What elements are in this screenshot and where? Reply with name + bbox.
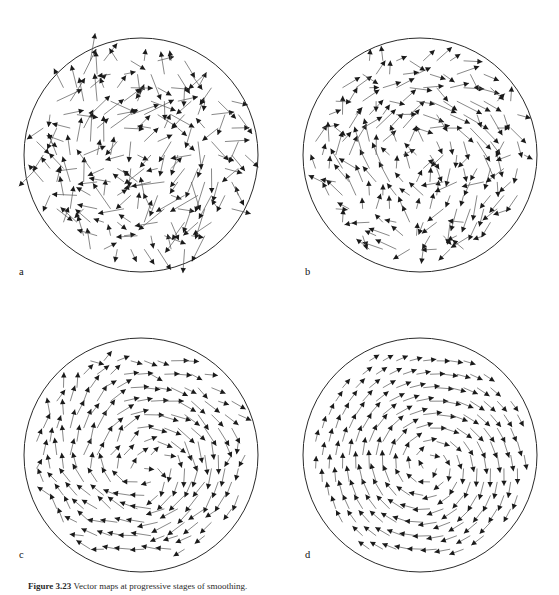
arrow-head: [313, 456, 318, 461]
arrow-head: [118, 425, 123, 431]
arrow-head: [78, 118, 83, 124]
arrow-head: [339, 158, 345, 163]
arrow-head: [37, 487, 43, 492]
arrow-head: [130, 492, 135, 497]
arrow-head: [329, 428, 334, 434]
arrow-head: [374, 90, 380, 95]
arrow-head: [315, 430, 320, 436]
arrow-head: [374, 134, 379, 139]
arrow-head: [474, 482, 479, 487]
arrow-head: [136, 192, 141, 197]
arrow-head: [163, 536, 169, 541]
arrow-group: [313, 355, 528, 556]
arrow-head: [220, 481, 225, 487]
arrow-head: [440, 371, 445, 376]
arrow-head: [406, 456, 411, 462]
arrow-head: [149, 466, 154, 471]
vector-field-plot-c: [0, 310, 280, 595]
arrow-head: [211, 454, 216, 460]
arrow-head: [366, 450, 371, 455]
arrow-head: [235, 449, 240, 455]
panel-c: c: [0, 310, 280, 595]
arrow-head: [417, 356, 423, 361]
arrow-head: [33, 165, 38, 171]
arrow-head: [130, 547, 135, 552]
arrow-head: [495, 391, 501, 396]
arrow-head: [130, 70, 136, 75]
arrow-head: [244, 138, 249, 143]
arrow-head: [373, 355, 379, 360]
panel-b: b: [279, 10, 559, 310]
arrow-head: [489, 376, 495, 381]
arrow-head: [441, 514, 447, 519]
arrow-head: [388, 499, 394, 504]
arrow-head: [106, 150, 111, 156]
arrow-head: [510, 466, 515, 472]
arrow-group: [19, 33, 259, 273]
arrow-head: [358, 541, 364, 546]
arrow-head: [492, 493, 497, 499]
arrow-head: [112, 43, 117, 49]
arrow-head: [240, 165, 245, 171]
arrow-head: [331, 149, 336, 155]
arrow-head: [347, 510, 352, 516]
arrow-head: [215, 506, 220, 512]
arrow-head: [180, 448, 186, 453]
arrow-head: [451, 105, 457, 110]
arrow-head: [107, 224, 112, 230]
arrow-head: [458, 359, 464, 364]
arrow-head: [334, 123, 340, 128]
arrow-head: [335, 441, 340, 447]
arrow-head: [181, 268, 186, 273]
arrow-head: [97, 73, 103, 78]
arrow-head: [385, 482, 390, 488]
arrow-head: [332, 467, 337, 472]
arrow-head: [376, 437, 381, 443]
arrow-head: [195, 538, 201, 543]
arrow-head: [445, 358, 450, 363]
arrow-head: [171, 453, 177, 458]
arrow-head: [183, 529, 189, 534]
arrow-head: [380, 450, 385, 455]
arrow-head: [470, 466, 475, 472]
arrow-head: [427, 129, 433, 134]
arrow-head: [327, 156, 332, 161]
arrow-head: [513, 406, 518, 412]
arrow-head: [170, 188, 175, 194]
arrow-head: [165, 247, 170, 253]
arrow-head: [372, 79, 378, 84]
arrow-head: [122, 479, 127, 484]
arrow-head: [188, 515, 194, 520]
arrow-head: [159, 491, 164, 497]
arrow-head: [120, 389, 126, 394]
arrow-head: [396, 486, 402, 491]
arrow-head: [345, 466, 350, 472]
arrow-head: [377, 194, 382, 200]
arrow-head: [143, 409, 149, 414]
arrow-head: [167, 477, 172, 483]
arrow-head: [360, 198, 365, 203]
arrow-head: [64, 207, 69, 213]
arrow-head: [477, 59, 482, 64]
arrow-head: [141, 481, 147, 486]
arrow-head: [134, 370, 139, 375]
vector-field-plot-d: [279, 310, 559, 595]
arrow-head: [224, 461, 229, 467]
arrow-head: [223, 401, 229, 406]
arrow-head: [46, 121, 51, 127]
arrow-head: [481, 231, 486, 237]
arrow-head: [91, 422, 96, 428]
arrow-head: [391, 439, 396, 445]
arrow-head: [71, 452, 76, 458]
arrow-head: [473, 419, 479, 424]
arrow-head: [445, 460, 450, 466]
arrow-head: [362, 437, 367, 443]
arrow-head: [186, 372, 191, 377]
arrow-head: [203, 424, 208, 430]
arrow-head: [194, 420, 200, 425]
arrow-head: [105, 156, 111, 161]
arrow-head: [197, 172, 202, 178]
arrow-head: [209, 188, 214, 193]
arrow-head: [128, 404, 134, 409]
arrow-head: [45, 398, 50, 404]
